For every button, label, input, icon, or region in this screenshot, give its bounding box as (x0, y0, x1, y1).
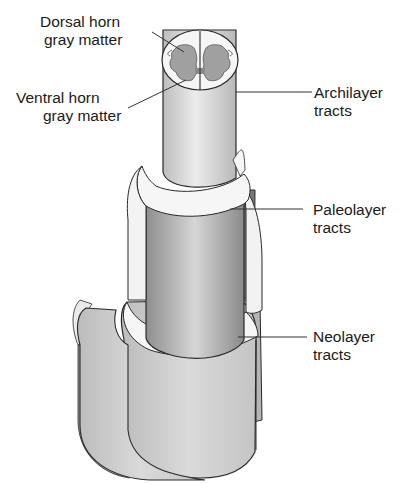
label-archilayer-tracts: Archilayer tracts (314, 84, 383, 120)
label-neolayer-line2: tracts (313, 346, 375, 364)
label-neolayer-tracts: Neolayer tracts (313, 328, 375, 364)
label-archilayer-line1: Archilayer (314, 84, 383, 102)
label-neolayer-line1: Neolayer (313, 328, 375, 346)
label-paleolayer-line2: tracts (313, 219, 386, 237)
label-paleolayer-tracts: Paleolayer tracts (313, 201, 386, 237)
spinal-cord-diagram (0, 0, 419, 484)
label-paleolayer-line1: Paleolayer (313, 201, 386, 219)
label-archilayer-line2: tracts (314, 102, 383, 120)
label-dorsal-horn-gray-matter: Dorsal horn gray matter (40, 13, 122, 49)
label-dorsal-horn-line2: gray matter (40, 31, 122, 49)
label-ventral-horn-line2: gray matter (16, 107, 121, 125)
label-ventral-horn-line1: Ventral horn (16, 89, 121, 107)
label-ventral-horn-gray-matter: Ventral horn gray matter (16, 89, 121, 125)
paleolayer-tracts-shape (127, 166, 262, 358)
spinal-cord-cross-section (162, 30, 238, 90)
label-dorsal-horn-line1: Dorsal horn (40, 13, 122, 31)
